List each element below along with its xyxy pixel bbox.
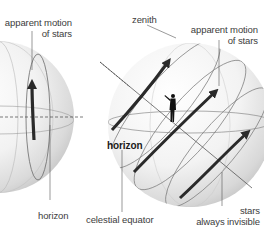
celestial-sphere-diagram: apparent motion of stars horizon zenith … bbox=[0, 0, 264, 234]
right-motion-label-line1: apparent motion bbox=[172, 24, 258, 35]
left-motion-label-line2: of stars bbox=[0, 28, 72, 39]
left-motion-label-line1: apparent motion bbox=[0, 17, 72, 28]
left-motion-arrow bbox=[32, 84, 34, 140]
stars-invisible-label-line1: stars bbox=[184, 205, 260, 216]
celestial-equator-label: celestial equator bbox=[86, 214, 153, 225]
right-sphere-body bbox=[108, 43, 264, 207]
right-horizon-label: horizon bbox=[107, 140, 142, 151]
right-motion-label-line2: of stars bbox=[172, 35, 258, 46]
left-horizon-label: horizon bbox=[38, 210, 68, 221]
stars-invisible-label-line2: always invisible bbox=[184, 216, 260, 227]
left-sphere bbox=[0, 31, 84, 200]
stars-invisible-label: stars always invisible bbox=[184, 205, 260, 227]
right-motion-label: apparent motion of stars bbox=[172, 24, 258, 46]
left-motion-label: apparent motion of stars bbox=[0, 17, 72, 39]
right-sphere bbox=[95, 25, 264, 223]
zenith-label: zenith bbox=[132, 14, 157, 25]
